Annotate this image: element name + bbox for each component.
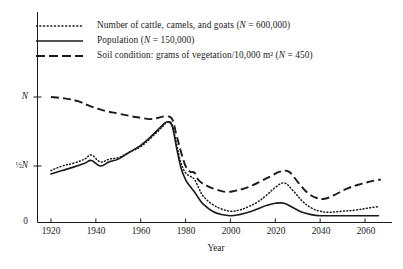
x-tick-label: 1940 [76,226,116,236]
x-axis-title: Year [186,243,246,253]
series-line-cattle [51,122,378,213]
x-tick-label: 2000 [211,226,251,236]
chart-series-layer [51,97,381,216]
y-tick-label-halfN: ½N [6,160,28,170]
x-axis-ticks [51,219,365,223]
series-line-soil [51,97,381,199]
x-tick-label: 1920 [31,226,71,236]
x-tick-label: 2040 [301,226,341,236]
series-line-population [51,122,378,216]
y-tick-label-0: 0 [6,216,28,226]
x-tick-label: 2020 [256,226,296,236]
x-tick-label: 2060 [346,226,386,236]
x-tick-label: 1980 [166,226,206,236]
y-tick-label-N: N [6,91,28,101]
x-tick-label: 1960 [121,226,161,236]
